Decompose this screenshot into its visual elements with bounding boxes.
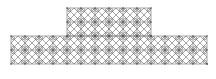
tile-cell	[80, 35, 95, 50]
tile-cell	[136, 21, 151, 36]
tile-cell	[24, 49, 39, 64]
tile-cell	[66, 35, 81, 50]
tile-cell	[178, 49, 193, 64]
tile-cell	[80, 7, 95, 22]
lower-tile-band	[10, 35, 207, 64]
tile-cell	[10, 49, 25, 64]
tile-cell	[38, 35, 53, 50]
tile-cell	[66, 21, 81, 36]
tile-cell	[94, 7, 109, 22]
tile-cell	[66, 49, 81, 64]
tile-cell	[150, 49, 165, 64]
tile-cell	[94, 21, 109, 36]
tile-cell	[108, 7, 123, 22]
tile-cell	[136, 49, 151, 64]
tile-cell	[108, 49, 123, 64]
tile-cell	[136, 35, 151, 50]
tile-cell	[80, 21, 95, 36]
tile-cell	[108, 35, 123, 50]
tile-cell	[94, 35, 109, 50]
geometric-pattern-drawing	[0, 0, 216, 79]
tile-cell	[80, 49, 95, 64]
tile-cell	[94, 49, 109, 64]
tile-cell	[122, 21, 137, 36]
tiling-diagram	[0, 0, 216, 79]
tile-cell	[122, 35, 137, 50]
tile-cell	[66, 7, 81, 22]
tile-cell	[178, 35, 193, 50]
tile-cell	[164, 35, 179, 50]
tile-cell	[136, 7, 151, 22]
upper-tile-block	[66, 7, 151, 36]
tile-cell	[192, 49, 207, 64]
tile-cell	[122, 49, 137, 64]
tile-cell	[122, 7, 137, 22]
tile-cell	[164, 49, 179, 64]
tile-cell	[108, 21, 123, 36]
tile-cell	[38, 49, 53, 64]
tile-cell	[52, 49, 67, 64]
tile-cell	[52, 35, 67, 50]
tile-cell	[10, 35, 25, 50]
tile-cell	[150, 35, 165, 50]
tile-cell	[192, 35, 207, 50]
tile-cell	[24, 35, 39, 50]
